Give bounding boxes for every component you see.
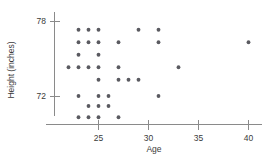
data-point bbox=[97, 94, 101, 98]
data-point bbox=[97, 65, 101, 69]
data-point bbox=[117, 40, 121, 44]
x-tick-label: 25 bbox=[94, 133, 104, 143]
data-point bbox=[157, 28, 161, 32]
data-point bbox=[67, 65, 71, 69]
x-tick-group: 25303540 bbox=[94, 120, 254, 143]
data-point bbox=[87, 40, 91, 44]
x-axis-title: Age bbox=[146, 144, 161, 154]
y-tick-label: 78 bbox=[37, 16, 47, 26]
scatter-plot-figure: 7278 25303540 Age Height (inches) bbox=[0, 0, 269, 165]
plot-canvas: 7278 25303540 Age Height (inches) bbox=[0, 0, 269, 165]
y-axis-title: Height (inches) bbox=[6, 41, 16, 98]
data-point bbox=[97, 53, 101, 57]
data-point bbox=[137, 28, 141, 32]
data-point bbox=[117, 115, 121, 119]
data-point bbox=[117, 78, 121, 82]
data-point bbox=[87, 115, 91, 119]
data-point bbox=[247, 40, 251, 44]
data-point bbox=[97, 78, 101, 82]
data-point bbox=[157, 40, 161, 44]
data-point bbox=[77, 65, 81, 69]
x-tick-label: 30 bbox=[144, 133, 154, 143]
data-point bbox=[157, 94, 161, 98]
data-point bbox=[77, 115, 81, 119]
y-tick-group: 7278 bbox=[37, 16, 60, 101]
data-point bbox=[77, 94, 81, 98]
data-point bbox=[87, 28, 91, 32]
data-point bbox=[137, 78, 141, 82]
data-point bbox=[77, 53, 81, 57]
data-point bbox=[127, 78, 131, 82]
data-point-group bbox=[67, 28, 251, 119]
data-point bbox=[77, 40, 81, 44]
data-point bbox=[97, 28, 101, 32]
data-point bbox=[87, 104, 91, 108]
data-point bbox=[87, 65, 91, 69]
data-point bbox=[117, 65, 121, 69]
data-point bbox=[107, 94, 111, 98]
x-tick-label: 40 bbox=[244, 133, 254, 143]
data-point bbox=[107, 104, 111, 108]
data-point bbox=[97, 104, 101, 108]
data-point bbox=[97, 115, 101, 119]
data-point bbox=[97, 40, 101, 44]
x-tick-label: 35 bbox=[194, 133, 204, 143]
data-point bbox=[177, 65, 181, 69]
data-point bbox=[77, 28, 81, 32]
y-tick-label: 72 bbox=[37, 91, 47, 101]
